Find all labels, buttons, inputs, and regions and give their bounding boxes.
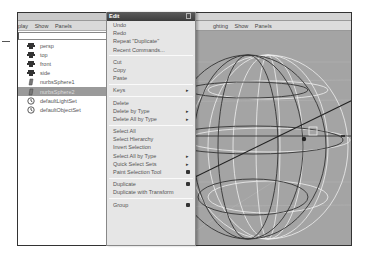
- menu-item-invert-selection[interactable]: Invert Selection: [107, 143, 195, 151]
- menu-item-redo[interactable]: Redo: [107, 29, 195, 37]
- menu-item-select-hierarchy[interactable]: Select Hierarchy: [107, 135, 195, 143]
- option-box-icon[interactable]: [186, 182, 190, 186]
- outliner-item-label: side: [40, 70, 50, 76]
- outliner-item-label: nurbsSphere1: [40, 79, 75, 85]
- viewport-menu-panels[interactable]: Panels: [255, 23, 272, 29]
- submenu-arrow-icon: ▸: [186, 152, 189, 160]
- menu-item-copy[interactable]: Copy: [107, 66, 195, 74]
- set-icon: [27, 97, 35, 105]
- outliner-menu-show[interactable]: Show: [35, 23, 49, 29]
- callout-line: [2, 41, 10, 42]
- menu-item-quick-select-sets[interactable]: Quick Select Sets▸: [107, 160, 195, 168]
- outliner-list: persptopfrontsidenurbsSphere1nurbsSphere…: [18, 41, 113, 115]
- menu-separator: [109, 178, 193, 179]
- menu-item-cut[interactable]: Cut: [107, 58, 195, 66]
- tear-off-icon[interactable]: [186, 13, 191, 19]
- option-box-icon[interactable]: [186, 170, 190, 174]
- menu-item-delete-all-by-type[interactable]: Delete All by Type▸: [107, 115, 195, 123]
- menu-item-label: Recent Commands...: [113, 47, 165, 53]
- menu-item-label: Cut: [113, 59, 122, 65]
- outliner-panel: play Show Panels persptopfrontsidenurbsS…: [18, 13, 113, 245]
- menu-separator: [109, 55, 193, 56]
- camera-icon: [27, 42, 35, 50]
- outliner-item[interactable]: defaultObjectSet: [18, 105, 113, 114]
- edit-menu-title: Edit: [109, 13, 119, 19]
- menu-item-paste[interactable]: Paste: [107, 74, 195, 82]
- menu-item-label: Delete All by Type: [113, 116, 157, 122]
- menu-item-label: Delete by Type: [113, 108, 150, 114]
- submenu-arrow-icon: ▸: [186, 115, 189, 123]
- menu-item-duplicate-with-transform[interactable]: Duplicate with Transform: [107, 188, 195, 196]
- menu-item-label: Group: [113, 202, 128, 208]
- edit-menu-items: UndoRedoRepeat "Duplicate"Recent Command…: [107, 21, 195, 209]
- menu-item-undo[interactable]: Undo: [107, 21, 195, 29]
- menu-item-label: Undo: [113, 22, 126, 28]
- outliner-item[interactable]: persp: [18, 41, 113, 50]
- menu-item-label: Repeat "Duplicate": [113, 38, 159, 44]
- menu-item-label: Select All by Type: [113, 153, 156, 159]
- menu-item-select-all-by-type[interactable]: Select All by Type▸: [107, 152, 195, 160]
- edit-menu-header: Edit: [107, 12, 195, 21]
- menu-item-label: Select Hierarchy: [113, 136, 153, 142]
- submenu-arrow-icon: ▸: [186, 107, 189, 115]
- outliner-item[interactable]: front: [18, 59, 113, 68]
- menu-item-group[interactable]: Group: [107, 201, 195, 209]
- outliner-menubar: play Show Panels: [18, 21, 113, 31]
- outliner-item-label: defaultObjectSet: [40, 107, 81, 113]
- menu-item-label: Quick Select Sets: [113, 161, 156, 167]
- outliner-item[interactable]: nurbsSphere1: [18, 78, 113, 87]
- menu-item-repeat-duplicate[interactable]: Repeat "Duplicate": [107, 37, 195, 45]
- menu-item-label: Paint Selection Tool: [113, 169, 161, 175]
- menu-separator: [109, 125, 193, 126]
- menu-separator: [109, 84, 193, 85]
- menu-item-keys[interactable]: Keys▸: [107, 86, 195, 94]
- menu-item-label: Keys: [113, 87, 125, 93]
- outliner-item-label: defaultLightSet: [40, 98, 77, 104]
- outliner-menu-display[interactable]: play: [18, 23, 28, 29]
- submenu-arrow-icon: ▸: [186, 160, 189, 168]
- viewport-menu-show[interactable]: Show: [235, 23, 249, 29]
- menu-item-label: Select All: [113, 128, 136, 134]
- menu-separator: [109, 198, 193, 199]
- outliner-item[interactable]: defaultLightSet: [18, 96, 113, 105]
- outliner-item[interactable]: side: [18, 69, 113, 78]
- camera-icon: [27, 51, 35, 59]
- menu-item-recent-commands[interactable]: Recent Commands...: [107, 46, 195, 54]
- nurbs-icon: [27, 88, 35, 96]
- menu-item-label: Duplicate with Transform: [113, 189, 174, 195]
- menu-item-label: Copy: [113, 67, 126, 73]
- option-box-icon[interactable]: [186, 203, 190, 207]
- menu-item-label: Redo: [113, 30, 126, 36]
- outliner-item-label: top: [40, 52, 48, 58]
- menu-separator: [109, 96, 193, 97]
- menu-item-select-all[interactable]: Select All: [107, 127, 195, 135]
- outliner-menu-panels[interactable]: Panels: [55, 23, 72, 29]
- menu-item-label: Paste: [113, 75, 127, 81]
- menu-item-paint-selection-tool[interactable]: Paint Selection Tool: [107, 168, 195, 176]
- menu-item-duplicate[interactable]: Duplicate: [107, 180, 195, 188]
- menu-item-delete-by-type[interactable]: Delete by Type▸: [107, 107, 195, 115]
- outliner-item-label: nurbsSphere2: [40, 89, 75, 95]
- outliner-item-label: persp: [40, 43, 54, 49]
- submenu-arrow-icon: ▸: [186, 86, 189, 94]
- set-icon: [27, 106, 35, 114]
- outliner-item-label: front: [40, 61, 51, 67]
- outliner-item[interactable]: top: [18, 50, 113, 59]
- outliner-item[interactable]: nurbsSphere2: [18, 87, 113, 96]
- menu-item-label: Invert Selection: [113, 144, 151, 150]
- menu-item-label: Delete: [113, 100, 129, 106]
- camera-icon: [27, 60, 35, 68]
- menu-item-label: Duplicate: [113, 181, 136, 187]
- outliner-titlebar: [18, 13, 113, 21]
- edit-menu: Edit UndoRedoRepeat "Duplicate"Recent Co…: [106, 12, 196, 246]
- menu-item-delete[interactable]: Delete: [107, 99, 195, 107]
- outliner-filter-input[interactable]: [18, 32, 113, 40]
- nurbs-icon: [27, 78, 35, 86]
- camera-icon: [27, 69, 35, 77]
- viewport-menu-lighting[interactable]: ghting: [213, 23, 228, 29]
